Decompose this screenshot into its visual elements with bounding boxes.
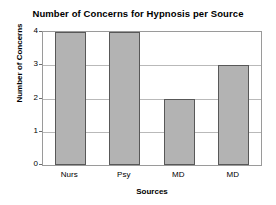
bar [218, 65, 249, 165]
x-axis-tick-group: NursPsyMDMD [42, 170, 262, 182]
bar-chart-figure: Number of Concerns for Hypnosis per Sour… [0, 0, 276, 205]
chart-title: Number of Concerns for Hypnosis per Sour… [0, 8, 276, 19]
x-axis-title: Sources [42, 187, 262, 196]
bar [55, 32, 86, 165]
y-tick-label: 0 [8, 160, 38, 168]
plot-area [42, 31, 262, 166]
x-tick-label: MD [151, 170, 206, 180]
bar [164, 99, 195, 166]
x-tick-label: Psy [97, 170, 152, 180]
y-axis-tick-group: 01234 [4, 31, 38, 166]
x-tick-label: MD [206, 170, 261, 180]
x-tick-label: Nurs [42, 170, 97, 180]
y-tick-label: 4 [8, 27, 38, 35]
bar [109, 32, 140, 165]
y-tick-label: 3 [8, 60, 38, 68]
y-tick-label: 2 [8, 94, 38, 102]
y-tick-label: 1 [8, 127, 38, 135]
